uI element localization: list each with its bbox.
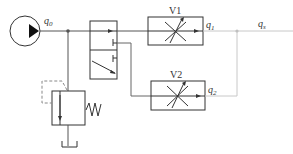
directional-valve	[90, 21, 117, 79]
throttle-valve-v2	[151, 81, 205, 110]
pump-flow-label: q0	[44, 15, 53, 28]
output-junction-dot	[235, 29, 238, 32]
tank-symbol	[62, 141, 77, 147]
flow-q2-label: q2	[208, 84, 217, 97]
flow-q1-label: q1	[206, 19, 215, 32]
flow-qs-label: qs	[258, 18, 266, 31]
valve-v2-label: V2	[170, 69, 182, 80]
throttle-valve-v1	[148, 17, 203, 45]
relief-valve	[42, 81, 101, 125]
valve-v1-label: V1	[169, 5, 181, 16]
v2-supply-line	[117, 43, 151, 96]
pump-symbol	[10, 16, 40, 46]
hydraulic-circuit-diagram: q0 V1 q1	[0, 0, 293, 154]
